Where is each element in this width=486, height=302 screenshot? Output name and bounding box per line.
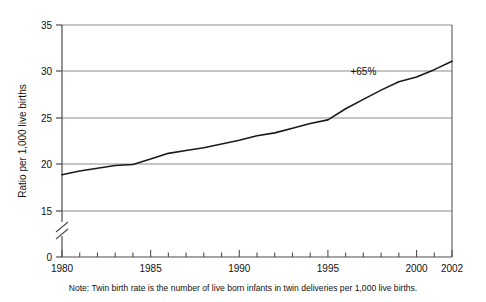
x-tick-label-1985: 1985 <box>139 263 162 274</box>
x-tick-labels: 1980 1985 1990 1995 2000 2002 <box>51 263 464 274</box>
y-axis-title: Ratio per 1,000 live births <box>17 84 28 197</box>
y-tick-label-0: 0 <box>46 252 52 263</box>
y-tick-labels: 35 30 25 20 15 0 <box>41 20 53 263</box>
x-tick-label-2002: 2002 <box>441 263 464 274</box>
plot-background <box>62 25 452 257</box>
y-tick-label-20: 20 <box>41 159 53 170</box>
x-tick-label-1990: 1990 <box>228 263 251 274</box>
twin-birth-rate-chart-figure: 35 30 25 20 15 0 1980 1985 1990 1995 200… <box>0 0 486 302</box>
line-chart: 35 30 25 20 15 0 1980 1985 1990 1995 200… <box>0 0 486 302</box>
y-tick-label-30: 30 <box>41 66 53 77</box>
x-tick-label-1980: 1980 <box>51 263 74 274</box>
x-tick-label-2000: 2000 <box>405 263 428 274</box>
annotation-percent-change: +65% <box>350 66 376 77</box>
chart-note: Note: Twin birth rate is the number of l… <box>0 283 486 293</box>
x-tick-label-1995: 1995 <box>317 263 340 274</box>
y-tick-label-15: 15 <box>41 206 53 217</box>
y-tick-label-25: 25 <box>41 113 53 124</box>
y-tick-label-35: 35 <box>41 20 53 31</box>
y-tick-marks <box>56 25 62 257</box>
